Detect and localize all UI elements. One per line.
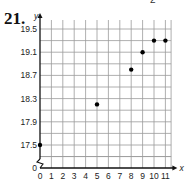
x-tick-label: 3	[72, 171, 77, 181]
x-tick-label: 0	[38, 171, 43, 181]
x-tick-label: 2	[60, 171, 65, 181]
y-axis-arrow-icon	[38, 13, 43, 18]
y-tick-label: 18.7	[20, 70, 37, 80]
y-tick-label: 18.3	[20, 94, 37, 104]
data-point	[38, 143, 42, 147]
x-tick-label: 8	[129, 171, 134, 181]
x-tick-label: 9	[140, 171, 145, 181]
y-axis-label: y	[33, 11, 39, 21]
data-point	[95, 102, 99, 106]
y-tick-label: 17.5	[20, 140, 37, 150]
axis-break-icon	[37, 159, 43, 168]
data-point	[163, 38, 167, 42]
x-tick-label: 10	[149, 171, 159, 181]
x-tick-label: 11	[161, 171, 170, 181]
y-tick-label: 0	[32, 163, 37, 173]
data-point	[152, 38, 156, 42]
x-tick-label: 7	[117, 171, 122, 181]
y-tick-label: 17.9	[20, 117, 37, 127]
x-tick-label: 1	[49, 171, 54, 181]
data-point	[129, 67, 133, 71]
x-axis-arrow-icon	[172, 166, 177, 171]
x-tick-label: 5	[95, 171, 100, 181]
x-axis-label: x	[178, 163, 184, 173]
y-tick-label: 19.5	[20, 24, 37, 34]
y-tick-label: 19.1	[20, 47, 37, 57]
scatter-chart: yx01234567891011017.517.918.318.719.119.…	[0, 0, 186, 191]
x-tick-label: 6	[106, 171, 111, 181]
x-tick-label: 4	[83, 171, 88, 181]
data-point	[140, 50, 144, 54]
